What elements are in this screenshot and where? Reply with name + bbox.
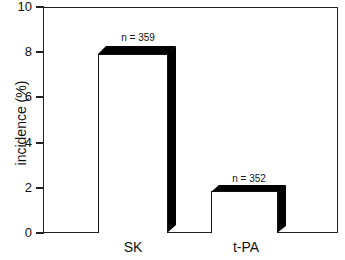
y-tick-label-2: 2 bbox=[8, 181, 32, 195]
bar-sk-top bbox=[98, 46, 176, 54]
bar-sk-front bbox=[98, 54, 168, 233]
bar-sk-n-label: n = 359 bbox=[103, 32, 173, 43]
x-label-sk: SK bbox=[98, 239, 168, 255]
y-tick-label-8: 8 bbox=[8, 45, 32, 59]
bar-tpa-front bbox=[211, 191, 278, 233]
bar-tpa-n-label: n = 352 bbox=[214, 173, 284, 184]
plot-frame bbox=[43, 7, 338, 233]
y-tick-4 bbox=[36, 142, 44, 144]
bar-chart: incidence (%) 0 2 4 6 8 10 n = 359 SK n … bbox=[0, 0, 345, 260]
y-tick-label-0: 0 bbox=[8, 226, 32, 240]
y-tick-6 bbox=[36, 96, 44, 98]
y-tick-2 bbox=[36, 187, 44, 189]
y-tick-10 bbox=[36, 6, 44, 8]
bar-tpa-side bbox=[277, 185, 286, 233]
y-axis-label: incidence (%) bbox=[13, 68, 29, 178]
y-tick-label-4: 4 bbox=[8, 136, 32, 150]
y-tick-label-10: 10 bbox=[8, 0, 32, 14]
x-label-tpa: t-PA bbox=[211, 239, 281, 255]
y-tick-8 bbox=[36, 51, 44, 53]
y-tick-0 bbox=[36, 232, 44, 234]
y-tick-label-6: 6 bbox=[8, 90, 32, 104]
bar-sk-side bbox=[167, 46, 176, 233]
